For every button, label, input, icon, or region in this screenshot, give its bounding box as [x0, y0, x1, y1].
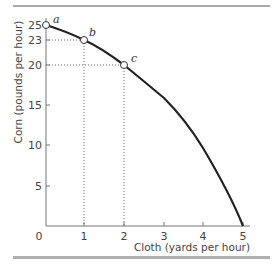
y-tick-20: 20: [28, 59, 42, 72]
guide-lines: [46, 40, 124, 226]
x-tick-1: 1: [81, 230, 88, 243]
x-tick-2: 2: [121, 230, 128, 243]
y-axis-title: Corn (pounds per hour): [12, 21, 24, 144]
point-c-label: c: [131, 52, 137, 65]
origin-label: 0: [36, 230, 43, 243]
y-tick-10: 10: [28, 139, 42, 152]
x-axis-title: Cloth (yards per hour): [134, 241, 250, 253]
ppf-chart: a b c 25 23 20 15 10 5 0 1 2 3 4 5 Cloth…: [0, 0, 278, 264]
y-tick-15: 15: [28, 99, 42, 112]
x-ticks: [84, 222, 243, 226]
point-a-label: a: [53, 13, 60, 26]
footer-rule: [13, 256, 270, 259]
y-tick-25: 25: [28, 19, 42, 32]
point-b-label: b: [89, 26, 96, 39]
point-b-marker: [81, 37, 88, 44]
point-c-marker: [121, 62, 128, 69]
y-tick-5: 5: [35, 180, 42, 193]
y-tick-23: 23: [28, 34, 42, 47]
point-a-marker: [43, 22, 50, 29]
y-ticks: [46, 25, 50, 186]
ppf-curve: [46, 25, 243, 226]
